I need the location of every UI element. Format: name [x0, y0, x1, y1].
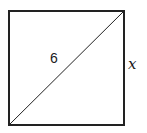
diagonal-label: 6	[50, 50, 58, 66]
side-label: x	[128, 55, 137, 73]
square-diagram: 6 x	[0, 0, 147, 133]
diagonal-line	[9, 11, 124, 125]
